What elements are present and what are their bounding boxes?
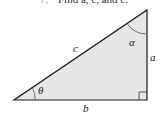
- label-b: b: [83, 102, 89, 114]
- label-alpha: α: [129, 36, 135, 48]
- label-c: c: [73, 42, 78, 54]
- label-a: a: [150, 51, 156, 63]
- label-theta: θ: [38, 84, 44, 96]
- right-triangle-diagram: c α a θ b: [0, 0, 161, 119]
